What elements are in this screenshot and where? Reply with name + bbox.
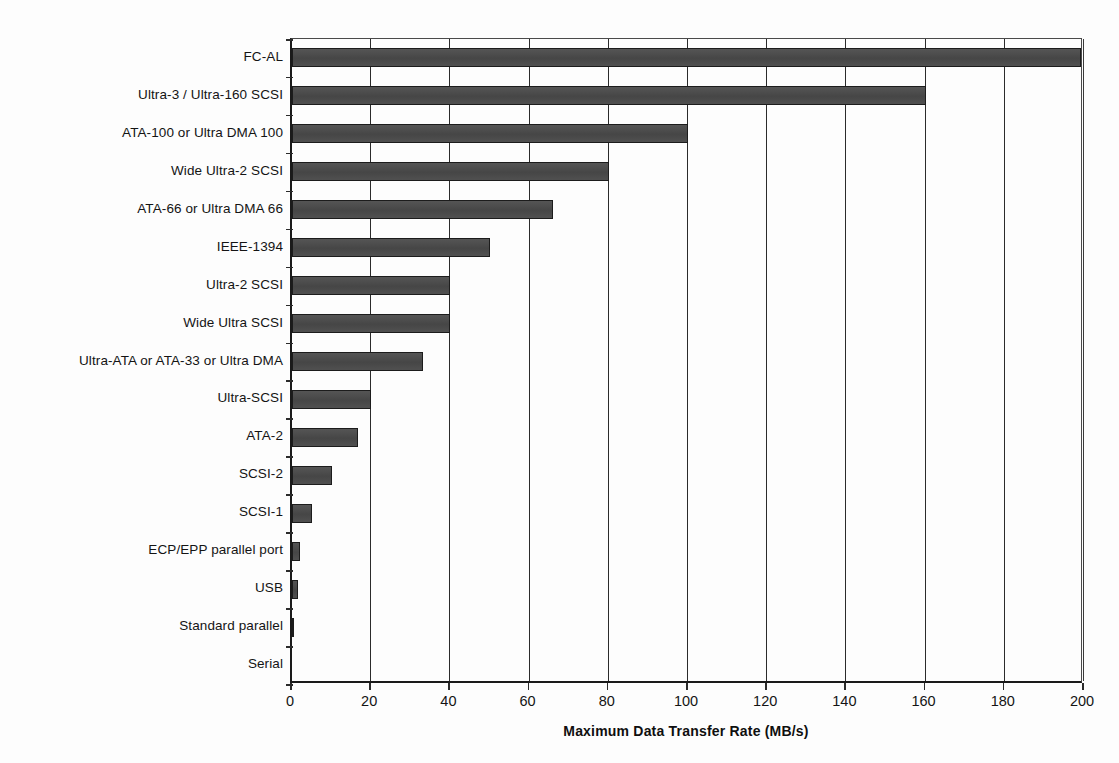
plot-area xyxy=(290,38,1082,683)
bar-row xyxy=(292,200,1081,220)
y-tick xyxy=(286,646,293,648)
x-tick-label-200: 200 xyxy=(1070,694,1094,709)
y-axis-label-10: ATA-2 xyxy=(3,429,283,443)
bar xyxy=(292,162,609,181)
x-tick-label-120: 120 xyxy=(753,694,777,709)
y-axis-label-2: ATA-100 or Ultra DMA 100 xyxy=(3,126,283,140)
x-axis-ticks xyxy=(290,683,1082,693)
y-axis-label-5: IEEE-1394 xyxy=(3,240,283,254)
bar xyxy=(292,504,312,523)
x-tick-label-100: 100 xyxy=(674,694,698,709)
y-tick xyxy=(286,532,293,534)
y-axis-label-1: Ultra-3 / Ultra-160 SCSI xyxy=(3,88,283,102)
y-axis-label-9: Ultra-SCSI xyxy=(3,391,283,405)
bar xyxy=(292,542,300,561)
y-tick xyxy=(286,39,293,41)
bar-row xyxy=(292,427,1081,447)
x-tick-180 xyxy=(1003,683,1005,690)
x-tick-100 xyxy=(686,683,688,690)
gridline-200 xyxy=(1083,39,1084,681)
x-axis-title: Maximum Data Transfer Rate (MB/s) xyxy=(290,723,1082,739)
y-axis-label-14: USB xyxy=(3,581,283,595)
y-axis-label-13: ECP/EPP parallel port xyxy=(3,543,283,557)
bar xyxy=(292,428,358,447)
x-tick-label-0: 0 xyxy=(286,694,294,709)
bar xyxy=(292,352,423,371)
y-axis-label-16: Serial xyxy=(3,657,283,671)
x-tick-label-20: 20 xyxy=(361,694,377,709)
bar-row xyxy=(292,48,1081,68)
bar xyxy=(292,580,298,599)
y-tick xyxy=(286,77,293,79)
bar xyxy=(292,86,926,105)
bar-row xyxy=(292,655,1081,675)
y-axis-label-8: Ultra-ATA or ATA-33 or Ultra DMA xyxy=(3,354,283,368)
y-tick xyxy=(286,191,293,193)
bar-row xyxy=(292,541,1081,561)
x-tick-60 xyxy=(528,683,530,690)
x-tick-label-140: 140 xyxy=(832,694,856,709)
y-axis-label-0: FC-AL xyxy=(3,50,283,64)
y-tick xyxy=(286,380,293,382)
x-tick-20 xyxy=(369,683,371,690)
y-tick xyxy=(286,115,293,117)
x-axis-tick-labels: 020406080100120140160180200 xyxy=(0,694,1119,716)
bar-row xyxy=(292,503,1081,523)
y-tick xyxy=(286,267,293,269)
y-axis-label-11: SCSI-2 xyxy=(3,467,283,481)
y-axis-label-12: SCSI-1 xyxy=(3,505,283,519)
bar xyxy=(292,618,294,637)
bar-row xyxy=(292,238,1081,258)
y-tick xyxy=(286,570,293,572)
x-tick-200 xyxy=(1082,683,1084,690)
bar xyxy=(292,314,450,333)
y-tick xyxy=(286,456,293,458)
y-tick xyxy=(286,229,293,231)
x-tick-label-60: 60 xyxy=(520,694,536,709)
x-tick-160 xyxy=(924,683,926,690)
bar-row xyxy=(292,124,1081,144)
y-tick xyxy=(286,305,293,307)
bar xyxy=(292,48,1081,67)
bar xyxy=(292,390,371,409)
x-tick-label-160: 160 xyxy=(911,694,935,709)
bar-row xyxy=(292,314,1081,334)
x-tick-label-180: 180 xyxy=(991,694,1015,709)
bar xyxy=(292,276,450,295)
bar-row xyxy=(292,86,1081,106)
x-tick-0 xyxy=(290,683,292,690)
bar xyxy=(292,466,332,485)
x-tick-120 xyxy=(765,683,767,690)
bar-row xyxy=(292,389,1081,409)
y-axis-label-3: Wide Ultra-2 SCSI xyxy=(3,164,283,178)
bar xyxy=(292,124,688,143)
bar-row xyxy=(292,276,1081,296)
y-tick xyxy=(286,494,293,496)
bar-row xyxy=(292,162,1081,182)
chart-page: FC-ALUltra-3 / Ultra-160 SCSIATA-100 or … xyxy=(0,0,1119,763)
bar-row xyxy=(292,579,1081,599)
bar-row xyxy=(292,617,1081,637)
y-tick xyxy=(286,153,293,155)
x-tick-140 xyxy=(844,683,846,690)
y-axis-label-4: ATA-66 or Ultra DMA 66 xyxy=(3,202,283,216)
bar xyxy=(292,200,553,219)
y-axis-label-7: Wide Ultra SCSI xyxy=(3,316,283,330)
y-axis-label-6: Ultra-2 SCSI xyxy=(3,278,283,292)
bar-row xyxy=(292,465,1081,485)
bar-row xyxy=(292,352,1081,372)
y-tick xyxy=(286,418,293,420)
y-axis-label-15: Standard parallel xyxy=(3,619,283,633)
bar xyxy=(292,238,490,257)
y-tick xyxy=(286,608,293,610)
x-tick-80 xyxy=(607,683,609,690)
x-tick-label-40: 40 xyxy=(440,694,456,709)
y-axis-category-labels: FC-ALUltra-3 / Ultra-160 SCSIATA-100 or … xyxy=(0,38,283,683)
x-tick-40 xyxy=(448,683,450,690)
x-tick-label-80: 80 xyxy=(599,694,615,709)
y-tick xyxy=(286,343,293,345)
